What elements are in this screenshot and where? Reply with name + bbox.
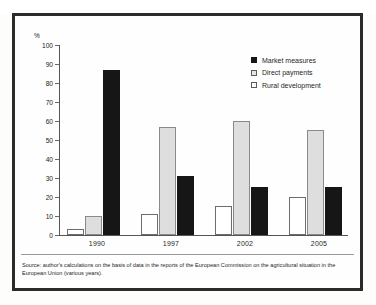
bar-1997-rural-development[interactable] <box>141 214 158 235</box>
chart-frame: % 100 90 80 70 60 50 40 30 20 10 <box>12 13 363 291</box>
bar-2005-direct-payments[interactable] <box>307 130 324 235</box>
bar-2002-rural-development[interactable] <box>215 206 232 235</box>
x-tick-label-2005: 2005 <box>289 240 349 247</box>
legend-item-market-measures[interactable]: Market measures <box>251 56 361 64</box>
legend-label-market-measures: Market measures <box>262 57 316 64</box>
bars-layer <box>15 16 360 248</box>
direct-swatch-icon <box>251 70 257 76</box>
legend-label-rural-development: Rural development <box>262 82 321 89</box>
x-tick-label-1990: 1990 <box>67 240 127 247</box>
scan-top-margin <box>0 0 376 14</box>
bar-1990-market-measures[interactable] <box>103 70 120 235</box>
bar-2005-market-measures[interactable] <box>325 187 342 235</box>
x-tick-label-2002: 2002 <box>215 240 275 247</box>
market-swatch-icon <box>251 57 257 63</box>
bar-1990-rural-development[interactable] <box>67 229 84 235</box>
chart-legend: Market measures Direct payments Rural de… <box>251 56 361 94</box>
bar-2002-direct-payments[interactable] <box>233 121 250 235</box>
bar-1997-direct-payments[interactable] <box>159 127 176 235</box>
source-note: Source: author's calculations on the bas… <box>22 261 348 277</box>
bar-group-1997 <box>141 45 201 235</box>
x-tick-label-1997: 1997 <box>141 240 201 247</box>
plot-area: % 100 90 80 70 60 50 40 30 20 10 <box>15 16 360 248</box>
legend-item-rural-development[interactable]: Rural development <box>251 81 361 89</box>
legend-label-direct-payments: Direct payments <box>262 69 313 76</box>
bar-group-1990 <box>67 45 127 235</box>
bar-2002-market-measures[interactable] <box>251 187 268 235</box>
bar-2005-rural-development[interactable] <box>289 197 306 235</box>
bar-1997-market-measures[interactable] <box>177 176 194 235</box>
legend-item-direct-payments[interactable]: Direct payments <box>251 69 361 77</box>
source-note-divider <box>21 254 354 255</box>
rural-swatch-icon <box>251 82 257 88</box>
bar-1990-direct-payments[interactable] <box>85 216 102 235</box>
figure-container: % 100 90 80 70 60 50 40 30 20 10 <box>0 0 376 305</box>
